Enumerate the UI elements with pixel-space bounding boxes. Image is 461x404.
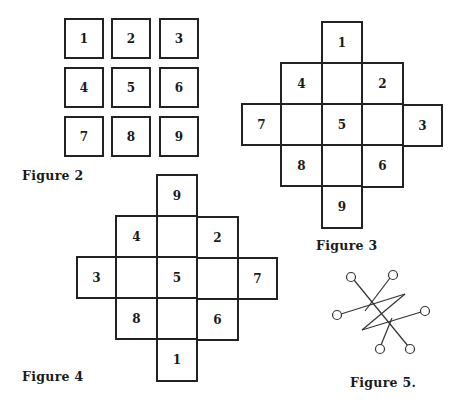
fig5-node-bottom-right [406, 345, 415, 354]
fig5-line-tr-mid [365, 278, 390, 311]
figure-5-drawing [0, 0, 461, 404]
fig5-node-bottom-left [376, 345, 385, 354]
fig5-node-left [333, 311, 342, 320]
figure-5-caption: Figure 5. [350, 375, 416, 390]
fig5-node-top-left [347, 273, 356, 282]
fig5-node-top-right [389, 271, 398, 280]
fig5-node-right [421, 307, 430, 316]
fig5-edge-diagonal [362, 294, 405, 330]
fig5-edge-bottom [362, 312, 421, 330]
